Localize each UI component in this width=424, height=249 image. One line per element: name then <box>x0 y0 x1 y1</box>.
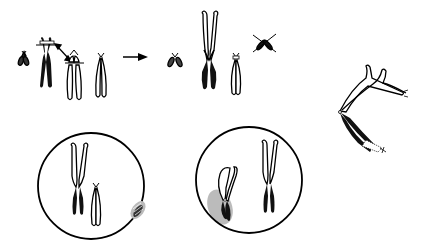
peripheral-halo-fragment <box>127 198 148 221</box>
nucleus-cell-1 <box>38 133 149 239</box>
result-arrow-icon <box>123 53 148 61</box>
deleted-fragment-icon <box>253 34 276 52</box>
swap-arrow-icon <box>55 44 71 61</box>
small-chromosome-2 <box>167 53 183 68</box>
chromosome-diagram <box>0 0 424 249</box>
open-acrocentric-chromosome-2 <box>231 53 240 95</box>
bent-derivative-chromosome <box>339 65 409 153</box>
open-acrocentric-chromosome <box>96 53 106 97</box>
nucleus-cell-2 <box>196 127 302 233</box>
derivative-chromosome <box>202 11 218 89</box>
small-chromosome-1 <box>17 51 29 66</box>
